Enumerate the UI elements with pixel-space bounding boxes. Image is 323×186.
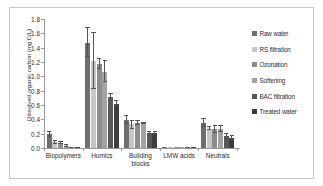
- bar[interactable]: [135, 123, 140, 148]
- error-bar-cap-top: [114, 100, 118, 101]
- bar[interactable]: [174, 147, 179, 148]
- error-bar: [104, 61, 105, 82]
- bar[interactable]: [69, 147, 74, 148]
- bar-column[interactable]: [135, 19, 140, 148]
- bar-column[interactable]: [114, 19, 119, 148]
- bar[interactable]: [179, 147, 184, 148]
- bar-column[interactable]: [201, 19, 206, 148]
- bar-column[interactable]: [52, 19, 57, 148]
- error-bar-cap-top: [147, 131, 151, 132]
- error-bar-cap-top: [130, 120, 134, 121]
- error-bar-cap-bottom: [224, 137, 228, 138]
- bar-column[interactable]: [152, 19, 157, 148]
- error-bar-cap-bottom: [47, 136, 51, 137]
- y-tick-label: 0.0: [31, 145, 40, 152]
- bar-column[interactable]: [141, 19, 146, 148]
- error-bar-cap-bottom: [53, 143, 57, 144]
- error-bar-cap-top: [58, 141, 62, 142]
- bar-group: [121, 19, 160, 148]
- bar-column[interactable]: [58, 19, 63, 148]
- y-tick-label: 0.8: [31, 87, 40, 94]
- legend-item[interactable]: Ozonation: [252, 57, 312, 73]
- bar[interactable]: [168, 147, 173, 148]
- legend-item[interactable]: BAC filtration: [252, 88, 312, 104]
- bar-column[interactable]: [162, 19, 167, 148]
- bar-column[interactable]: [64, 19, 69, 148]
- error-bar: [93, 33, 94, 88]
- error-bar-cap-top: [91, 32, 95, 33]
- bar-group: [83, 19, 122, 148]
- bar-column[interactable]: [224, 19, 229, 148]
- y-tick-label: 1.2: [31, 59, 40, 66]
- error-bar-cap-bottom: [135, 124, 139, 125]
- x-tick-mark: [198, 148, 199, 151]
- bar[interactable]: [207, 129, 212, 148]
- error-bar-cap-bottom: [147, 133, 151, 134]
- bar-column[interactable]: [97, 19, 102, 148]
- bar-column[interactable]: [207, 19, 212, 148]
- bar-column[interactable]: [129, 19, 134, 148]
- bar-column[interactable]: [124, 19, 129, 148]
- bar[interactable]: [75, 147, 80, 148]
- bar-column[interactable]: [108, 19, 113, 148]
- bar[interactable]: [114, 104, 119, 148]
- error-bar-cap-top: [135, 120, 139, 121]
- legend-label: Softening: [260, 77, 286, 84]
- bar[interactable]: [147, 133, 152, 148]
- legend-swatch-icon: [252, 62, 257, 67]
- bar-group: [160, 19, 199, 148]
- bar[interactable]: [108, 97, 113, 148]
- bar-column[interactable]: [69, 19, 74, 148]
- bar-column[interactable]: [75, 19, 80, 148]
- legend-item[interactable]: Raw water: [252, 26, 312, 42]
- bar[interactable]: [185, 147, 190, 148]
- bar-column[interactable]: [91, 19, 96, 148]
- bar-column[interactable]: [212, 19, 217, 148]
- legend-swatch-icon: [252, 109, 257, 114]
- bar-column[interactable]: [168, 19, 173, 148]
- bar[interactable]: [124, 120, 129, 148]
- bar[interactable]: [85, 43, 90, 148]
- bar-column[interactable]: [147, 19, 152, 148]
- bar-column[interactable]: [185, 19, 190, 148]
- bar[interactable]: [191, 147, 196, 148]
- bar-column[interactable]: [47, 19, 52, 148]
- bar-column[interactable]: [179, 19, 184, 148]
- bar[interactable]: [152, 133, 157, 148]
- bar-column[interactable]: [174, 19, 179, 148]
- error-bar-cap-bottom: [207, 129, 211, 130]
- x-tick-mark: [121, 148, 122, 151]
- error-bar-cap-top: [218, 125, 222, 126]
- x-tick-mark: [44, 148, 45, 151]
- legend-item[interactable]: Softening: [252, 73, 312, 89]
- legend-swatch-icon: [252, 94, 257, 99]
- y-tick-label: 0.4: [31, 116, 40, 123]
- error-bar-cap-top: [97, 58, 101, 59]
- bar-column[interactable]: [229, 19, 234, 148]
- error-bar-cap-bottom: [218, 131, 222, 132]
- x-axis-line: [44, 148, 240, 149]
- bar[interactable]: [162, 147, 167, 148]
- bar[interactable]: [97, 64, 102, 148]
- error-bar-cap-top: [213, 125, 217, 126]
- error-bar-cap-top: [207, 126, 211, 127]
- bar[interactable]: [141, 124, 146, 148]
- error-bar-cap-bottom: [153, 133, 157, 134]
- bar[interactable]: [218, 129, 223, 148]
- legend-label: RS filtration: [260, 46, 291, 53]
- bar-column[interactable]: [85, 19, 90, 148]
- bar[interactable]: [102, 72, 107, 148]
- legend-item[interactable]: RS filtration: [252, 42, 312, 58]
- error-bar-cap-bottom: [97, 68, 101, 69]
- legend-label: Ozonation: [260, 61, 288, 68]
- x-axis-category-label: Neutrals: [192, 152, 243, 160]
- bar-column[interactable]: [102, 19, 107, 148]
- error-bar-cap-bottom: [85, 56, 89, 57]
- error-bar-cap-top: [224, 133, 228, 134]
- error-bar-cap-bottom: [141, 123, 145, 124]
- legend-item[interactable]: Treated water: [252, 104, 312, 120]
- bar-column[interactable]: [218, 19, 223, 148]
- error-bar-cap-top: [201, 118, 205, 119]
- bar-column[interactable]: [191, 19, 196, 148]
- error-bar-cap-top: [153, 131, 157, 132]
